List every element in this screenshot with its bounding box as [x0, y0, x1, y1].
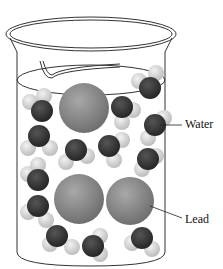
- water-molecule: [124, 227, 160, 257]
- water-molecule: [82, 228, 108, 262]
- water-molecule: [42, 225, 80, 255]
- water-molecule: [20, 195, 54, 228]
- water-molecule: [22, 88, 53, 122]
- water-molecule: [20, 157, 49, 191]
- water-molecule: [58, 139, 95, 170]
- water-label: Water: [185, 117, 213, 132]
- water-molecule: [134, 148, 164, 177]
- lead-label: Lead: [185, 212, 209, 227]
- water-molecule: [20, 125, 58, 156]
- water-molecule: [98, 132, 130, 168]
- lead-atom: [106, 177, 154, 225]
- lead-leader-line: [150, 206, 182, 218]
- beaker-diagram: [0, 0, 223, 269]
- water-molecule: [140, 110, 172, 146]
- lead-atom: [54, 174, 104, 224]
- water-molecule: [111, 96, 141, 130]
- lead-atom: [59, 83, 109, 133]
